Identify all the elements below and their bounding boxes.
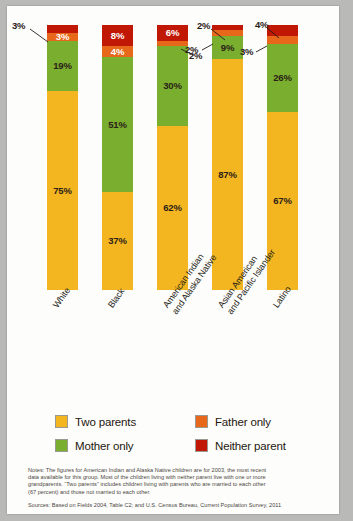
legend-item-mother-only[interactable]: Mother only	[55, 439, 133, 452]
segment-value: 26%	[273, 73, 291, 83]
bar-black[interactable]: 37% 51% 4% 8%	[102, 25, 133, 290]
segment-value: 6%	[166, 28, 179, 38]
scanned-page: 75% 19% 3% 3% 37% 51% 4% 8% 62% 30% 6% 2…	[7, 6, 339, 514]
bar-white[interactable]: 75% 19% 3%	[47, 25, 78, 290]
segment-two-parents[interactable]: 87%	[212, 59, 243, 290]
segment-value: 4%	[111, 47, 124, 57]
legend-swatch-two-parents-icon	[55, 415, 68, 428]
segment-two-parents[interactable]: 62%	[157, 126, 188, 290]
note-line-1: Notes: The figures for American Indian a…	[28, 467, 320, 474]
legend-label: Two parents	[75, 416, 136, 428]
segment-mother-only[interactable]: 19%	[47, 41, 78, 91]
legend-swatch-mother-only-icon	[55, 439, 68, 452]
segment-value: 87%	[218, 170, 236, 180]
segment-value: 8%	[111, 31, 124, 41]
segment-value: 37%	[108, 236, 126, 246]
legend-swatch-father-only-icon	[195, 415, 208, 428]
segment-value: 30%	[163, 81, 181, 91]
note-line-2: data available for this group. Most of t…	[28, 474, 320, 481]
leader-line-aapi-neither	[210, 28, 228, 42]
segment-mother-only[interactable]: 26%	[267, 44, 298, 113]
segment-value: 19%	[53, 61, 71, 71]
legend-label: Mother only	[75, 440, 133, 452]
bar-asian-american-and-pacific-islander[interactable]: 87% 9%	[212, 25, 243, 290]
legend-item-father-only[interactable]: Father only	[195, 415, 271, 428]
segment-value: 9%	[221, 43, 234, 53]
callout-white-neither-parent: 3%	[12, 20, 25, 31]
legend-label: Father only	[215, 416, 271, 428]
chart-footnotes: Notes: The figures for American Indian a…	[28, 467, 320, 509]
legend-item-neither-parent[interactable]: Neither parent	[195, 439, 286, 452]
segment-value: 62%	[163, 203, 181, 213]
segment-two-parents[interactable]: 67%	[267, 112, 298, 290]
segment-neither-parent[interactable]: 8%	[102, 25, 133, 46]
leader-line-latino-father	[255, 44, 269, 54]
segment-two-parents[interactable]: 37%	[102, 192, 133, 290]
stacked-bar-chart: 75% 19% 3% 3% 37% 51% 4% 8% 62% 30% 6% 2…	[7, 6, 339, 306]
leader-line-latino-neither	[266, 27, 282, 40]
legend-item-two-parents[interactable]: Two parents	[55, 415, 136, 428]
legend-swatch-neither-parent-icon	[195, 439, 208, 452]
segment-neither-parent[interactable]: 6%	[157, 25, 188, 41]
segment-value: 51%	[108, 120, 126, 130]
callout-aapi-neither-parent: 2%	[197, 20, 210, 31]
leader-line-white-neither	[29, 28, 53, 44]
segment-father-only[interactable]: 4%	[102, 46, 133, 57]
callout-latino-father-only: 3%	[240, 46, 253, 57]
bar-american-indian-and-alaska-native[interactable]: 62% 30% 6%	[157, 25, 188, 290]
segment-value: 3%	[56, 32, 69, 42]
segment-mother-only[interactable]: 30%	[157, 46, 188, 126]
callout-aapi-father-only: 2%	[185, 44, 198, 55]
legend-label: Neither parent	[215, 440, 286, 452]
note-line-4: (67 percent) and those not married to ea…	[28, 489, 320, 496]
segment-two-parents[interactable]: 75%	[47, 91, 78, 290]
leader-line-aapi-father	[201, 42, 215, 52]
segment-value: 67%	[273, 196, 291, 206]
segment-value: 75%	[53, 186, 71, 196]
note-line-3: grandparents. “Two parents” includes chi…	[28, 481, 320, 488]
chart-legend: Two parents Mother only Father only Neit…	[55, 415, 305, 461]
segment-mother-only[interactable]: 51%	[102, 57, 133, 192]
note-sources: Sources: Based on Fields 2004, Table C2;…	[28, 502, 320, 509]
